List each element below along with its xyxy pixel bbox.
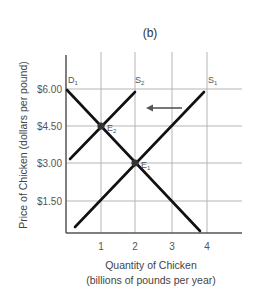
label-e2: E2	[107, 123, 117, 134]
x-tick-label: 2	[132, 241, 138, 252]
y-tick-label: $1.50	[37, 196, 62, 207]
y-tick-label: $4.50	[37, 121, 62, 132]
label-d1: D1	[68, 75, 79, 86]
shift-arrow-left	[146, 105, 182, 112]
chart-canvas: (b) $6.00 $4.50 $3.00 $1.50 1 2 3 4 Quan…	[0, 0, 253, 299]
x-axis-sublabel: (billions of pounds per year)	[86, 274, 216, 286]
label-s1: S1	[208, 75, 218, 86]
y-tick-label: $6.00	[37, 84, 62, 95]
x-tick-label: 3	[169, 241, 175, 252]
x-tick-label: 4	[204, 241, 210, 252]
equilibrium-point-e1	[131, 159, 138, 166]
chart-title: (b)	[143, 26, 158, 40]
x-tick-label: 1	[98, 241, 104, 252]
x-axis-label: Quantity of Chicken	[105, 259, 197, 271]
supply-curve-s1	[75, 92, 204, 227]
label-s2: S2	[135, 75, 145, 86]
label-e1: E1	[141, 160, 151, 171]
y-axis-label: Price of Chicken (dollars per pound)	[17, 61, 29, 229]
y-tick-label: $3.00	[37, 158, 62, 169]
equilibrium-point-e2	[97, 122, 104, 129]
